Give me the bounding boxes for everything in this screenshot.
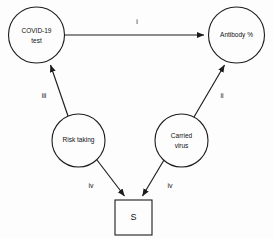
edge-label-iii: iii: [42, 92, 47, 99]
edge-label-i: i: [136, 18, 138, 25]
node-covid-test[interactable]: COVID-19 test: [9, 7, 65, 63]
node-risk-taking-label: Risk taking: [63, 136, 95, 144]
node-covid-test-label-line1: COVID-19: [22, 27, 52, 34]
node-covid-test-shape: [9, 7, 65, 63]
node-covid-test-label-line2: test: [31, 37, 42, 44]
edge-label-iv-risk: iv: [88, 182, 94, 189]
edge-risk-to-covid: [51, 65, 69, 116]
edge-label-ii: ii: [220, 92, 224, 99]
node-s-box-label: S: [130, 212, 136, 222]
node-carried-virus-label-line1: Carried: [171, 132, 193, 139]
diagram-canvas: i iii ii iv iv COVID-19 test Antibody % …: [0, 0, 274, 239]
edge-label-iv-carried: iv: [167, 182, 173, 189]
node-antibody-label: Antibody %: [220, 31, 253, 39]
edge-carried-to-s: [143, 160, 165, 196]
node-carried-virus-shape: [155, 114, 208, 167]
edge-risk-to-s: [97, 160, 125, 196]
causal-diagram: i iii ii iv iv COVID-19 test Antibody % …: [0, 0, 274, 239]
node-risk-taking[interactable]: Risk taking: [52, 114, 105, 167]
node-antibody[interactable]: Antibody %: [209, 7, 265, 63]
node-carried-virus[interactable]: Carried virus: [155, 114, 208, 167]
node-s-box[interactable]: S: [115, 200, 152, 235]
node-carried-virus-label-line2: virus: [175, 142, 189, 149]
